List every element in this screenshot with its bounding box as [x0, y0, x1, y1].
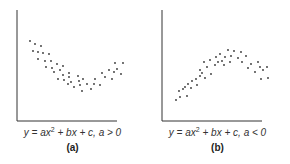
- data-point: [79, 84, 81, 86]
- data-point: [237, 57, 239, 59]
- scatter-plot-b: [145, 0, 290, 124]
- panel-a: y = ax2 + bx + c, a > 0 (a): [0, 0, 145, 164]
- data-point: [29, 40, 31, 42]
- data-point: [78, 80, 80, 82]
- data-point: [90, 88, 92, 90]
- data-point: [94, 78, 96, 80]
- data-point: [210, 73, 212, 75]
- data-point: [108, 69, 110, 71]
- data-point: [62, 74, 64, 76]
- data-point: [32, 50, 34, 52]
- data-point: [259, 66, 261, 68]
- data-point: [67, 83, 69, 85]
- data-point: [73, 86, 75, 88]
- data-point: [42, 52, 44, 54]
- data-point: [190, 87, 192, 89]
- panel-label: (a): [0, 142, 145, 153]
- data-point: [204, 77, 206, 79]
- data-point: [209, 59, 211, 61]
- data-point: [63, 79, 65, 81]
- data-point: [104, 76, 106, 78]
- data-point: [187, 83, 189, 85]
- data-point: [219, 53, 221, 55]
- data-point: [120, 73, 122, 75]
- data-point: [206, 66, 208, 68]
- data-point: [182, 88, 184, 90]
- data-point: [48, 53, 50, 55]
- data-point: [56, 63, 58, 65]
- data-point: [59, 69, 61, 71]
- data-point: [240, 51, 242, 53]
- scatter-plot-a: [0, 0, 145, 124]
- data-point: [68, 76, 70, 78]
- data-point: [254, 71, 256, 73]
- data-point: [262, 69, 264, 71]
- equation-caption: y = ax2 + bx + c, a > 0: [0, 126, 145, 138]
- equation-caption: y = ax2 + bx + c, a < 0: [145, 126, 290, 138]
- data-point: [201, 72, 203, 74]
- data-point: [260, 78, 262, 80]
- data-point: [221, 60, 223, 62]
- data-point: [40, 45, 42, 47]
- data-point: [224, 56, 226, 58]
- data-point: [191, 80, 193, 82]
- data-point: [214, 64, 216, 66]
- data-points: [175, 49, 269, 101]
- data-point: [34, 43, 36, 45]
- data-point: [77, 75, 79, 77]
- data-point: [62, 65, 64, 67]
- data-point: [203, 61, 205, 63]
- data-point: [37, 58, 39, 60]
- data-point: [217, 61, 219, 63]
- panel-b: y = ax2 + bx + c, a < 0 (b): [145, 0, 290, 164]
- data-point: [229, 61, 231, 63]
- data-point: [175, 99, 177, 101]
- data-point: [186, 95, 188, 97]
- data-point: [99, 84, 101, 86]
- data-point: [57, 78, 59, 80]
- data-point: [178, 90, 180, 92]
- data-point: [241, 61, 243, 63]
- data-point: [233, 50, 235, 52]
- data-point: [196, 84, 198, 86]
- data-point: [247, 67, 249, 69]
- data-point: [257, 61, 259, 63]
- data-point: [113, 71, 115, 73]
- data-point: [111, 78, 113, 80]
- data-point: [45, 66, 47, 68]
- data-point: [44, 60, 46, 62]
- data-point: [215, 56, 217, 58]
- data-point: [199, 75, 201, 77]
- data-point: [93, 83, 95, 85]
- data-point: [101, 72, 103, 74]
- data-point: [81, 90, 83, 92]
- data-point: [227, 49, 229, 51]
- data-point: [51, 67, 53, 69]
- data-point: [86, 83, 88, 85]
- data-point: [179, 96, 181, 98]
- data-point: [50, 60, 52, 62]
- data-point: [266, 66, 268, 68]
- data-point: [199, 69, 201, 71]
- data-point: [223, 64, 225, 66]
- data-point: [267, 77, 269, 79]
- data-point: [245, 55, 247, 57]
- data-point: [184, 86, 186, 88]
- data-point: [230, 55, 232, 57]
- data-point: [70, 81, 72, 83]
- data-point: [114, 62, 116, 64]
- data-point: [250, 63, 252, 65]
- data-points: [29, 40, 124, 92]
- data-point: [82, 78, 84, 80]
- data-point: [195, 78, 197, 80]
- data-point: [68, 72, 70, 74]
- data-point: [122, 62, 124, 64]
- data-point: [53, 71, 55, 73]
- panel-label: (b): [145, 142, 290, 153]
- data-point: [37, 51, 39, 53]
- data-point: [116, 68, 118, 70]
